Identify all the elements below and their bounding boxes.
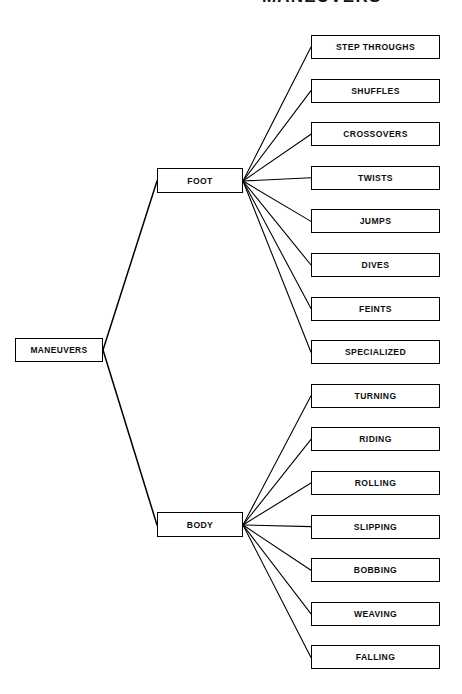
node-riding-label: RIDING — [359, 434, 391, 444]
edge-body-turning — [243, 396, 311, 525]
node-maneuvers-label: MANEUVERS — [30, 345, 87, 355]
node-dives-label: DIVES — [362, 260, 390, 270]
diagram-canvas: MANEUVERS — [0, 0, 462, 694]
edge-foot-twists — [243, 178, 311, 181]
node-crossovers[interactable]: CROSSOVERS — [311, 122, 440, 146]
node-maneuvers[interactable]: MANEUVERS — [15, 338, 103, 362]
node-weaving-label: WEAVING — [354, 609, 397, 619]
node-shuffles[interactable]: SHUFFLES — [311, 79, 440, 103]
node-rolling-label: ROLLING — [355, 478, 396, 488]
edge-body-riding — [243, 439, 311, 525]
edge-body-slipping — [243, 525, 311, 527]
edge-body-weaving — [243, 525, 311, 614]
node-slipping-label: SLIPPING — [354, 522, 397, 532]
node-body-label: BODY — [187, 520, 213, 530]
node-bobbing[interactable]: BOBBING — [311, 558, 440, 582]
node-shuffles-label: SHUFFLES — [351, 86, 400, 96]
node-twists-label: TWISTS — [358, 173, 393, 183]
edge-maneuvers-foot — [103, 181, 157, 350]
node-step-throughs-label: STEP THROUGHS — [336, 42, 415, 52]
node-turning[interactable]: TURNING — [311, 384, 440, 408]
node-feints[interactable]: FEINTS — [311, 297, 440, 321]
node-foot-label: FOOT — [187, 176, 212, 186]
edge-body-falling — [243, 525, 311, 657]
node-weaving[interactable]: WEAVING — [311, 602, 440, 626]
node-feints-label: FEINTS — [359, 304, 392, 314]
edge-foot-dives — [243, 181, 311, 265]
node-slipping[interactable]: SLIPPING — [311, 515, 440, 539]
node-falling[interactable]: FALLING — [311, 645, 440, 669]
node-bobbing-label: BOBBING — [354, 565, 397, 575]
node-dives[interactable]: DIVES — [311, 253, 440, 277]
edge-maneuvers-body — [103, 350, 157, 525]
node-foot[interactable]: FOOT — [157, 168, 243, 193]
edge-body-rolling — [243, 483, 311, 525]
edge-foot-specialized — [243, 181, 311, 352]
edge-body-bobbing — [243, 525, 311, 570]
edge-foot-crossovers — [243, 134, 311, 181]
node-jumps[interactable]: JUMPS — [311, 209, 440, 233]
node-riding[interactable]: RIDING — [311, 427, 440, 451]
node-falling-label: FALLING — [356, 652, 396, 662]
node-specialized-label: SPECIALIZED — [345, 347, 406, 357]
edge-foot-feints — [243, 181, 311, 309]
node-body[interactable]: BODY — [157, 512, 243, 537]
node-step-throughs[interactable]: STEP THROUGHS — [311, 35, 440, 59]
node-turning-label: TURNING — [355, 391, 397, 401]
node-twists[interactable]: TWISTS — [311, 166, 440, 190]
edge-foot-shuffles — [243, 91, 311, 181]
node-specialized[interactable]: SPECIALIZED — [311, 340, 440, 364]
edge-foot-step-throughs — [243, 47, 311, 181]
node-rolling[interactable]: ROLLING — [311, 471, 440, 495]
node-jumps-label: JUMPS — [360, 216, 392, 226]
node-crossovers-label: CROSSOVERS — [343, 129, 408, 139]
